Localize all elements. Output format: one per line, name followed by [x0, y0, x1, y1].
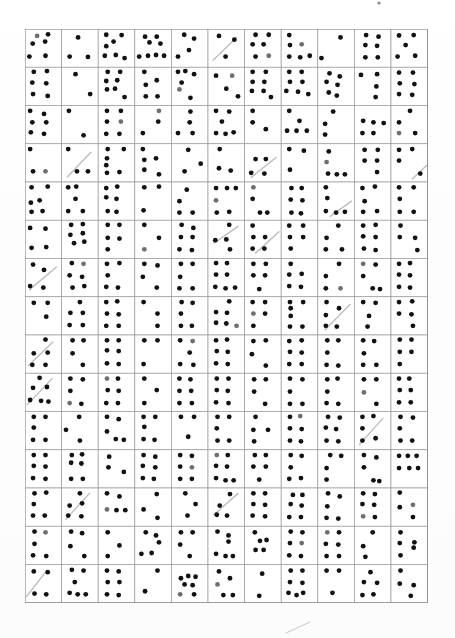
grid-cell[interactable]	[318, 259, 355, 297]
grid-cell[interactable]	[171, 564, 208, 602]
grid-cell[interactable]	[281, 488, 318, 526]
grid-cell[interactable]	[391, 144, 428, 182]
grid-cell[interactable]	[208, 526, 245, 564]
grid-cell[interactable]	[135, 335, 172, 373]
grid-cell[interactable]	[135, 564, 172, 602]
grid-cell[interactable]	[171, 488, 208, 526]
grid-cell[interactable]	[25, 67, 62, 105]
grid-cell[interactable]	[135, 297, 172, 335]
grid-cell[interactable]	[62, 67, 99, 105]
grid-cell[interactable]	[281, 373, 318, 411]
grid-cell[interactable]	[25, 373, 62, 411]
grid-cell[interactable]	[391, 526, 428, 564]
grid-cell[interactable]	[135, 488, 172, 526]
grid-cell[interactable]	[25, 488, 62, 526]
grid-cell[interactable]	[245, 182, 282, 220]
grid-cell[interactable]	[281, 220, 318, 258]
grid-cell[interactable]	[98, 526, 135, 564]
grid-cell[interactable]	[62, 220, 99, 258]
grid-cell[interactable]	[208, 411, 245, 449]
grid-cell[interactable]	[135, 29, 172, 67]
grid-cell[interactable]	[354, 297, 391, 335]
grid-cell[interactable]	[135, 67, 172, 105]
grid-cell[interactable]	[98, 450, 135, 488]
grid-cell[interactable]	[318, 29, 355, 67]
grid-cell[interactable]	[135, 373, 172, 411]
grid-cell[interactable]	[354, 564, 391, 602]
grid-cell[interactable]	[135, 450, 172, 488]
grid-cell[interactable]	[98, 259, 135, 297]
grid-cell[interactable]	[318, 297, 355, 335]
grid-cell[interactable]	[245, 67, 282, 105]
grid-cell[interactable]	[281, 564, 318, 602]
grid-cell[interactable]	[354, 220, 391, 258]
grid-cell[interactable]	[245, 220, 282, 258]
grid-cell[interactable]	[391, 182, 428, 220]
grid-cell[interactable]	[208, 106, 245, 144]
grid-cell[interactable]	[208, 488, 245, 526]
grid-cell[interactable]	[62, 526, 99, 564]
grid-cell[interactable]	[98, 488, 135, 526]
grid-cell[interactable]	[208, 144, 245, 182]
grid-cell[interactable]	[135, 106, 172, 144]
grid-cell[interactable]	[98, 67, 135, 105]
grid-cell[interactable]	[281, 29, 318, 67]
grid-cell[interactable]	[62, 29, 99, 67]
grid-cell[interactable]	[354, 144, 391, 182]
grid-cell[interactable]	[171, 297, 208, 335]
grid-cell[interactable]	[25, 29, 62, 67]
grid-cell[interactable]	[245, 373, 282, 411]
grid-cell[interactable]	[135, 220, 172, 258]
grid-cell[interactable]	[62, 335, 99, 373]
grid-cell[interactable]	[354, 29, 391, 67]
grid-cell[interactable]	[281, 144, 318, 182]
grid-cell[interactable]	[171, 182, 208, 220]
grid-cell[interactable]	[25, 297, 62, 335]
grid-cell[interactable]	[281, 106, 318, 144]
grid-cell[interactable]	[171, 411, 208, 449]
grid-cell[interactable]	[245, 450, 282, 488]
grid-cell[interactable]	[318, 564, 355, 602]
grid-cell[interactable]	[391, 220, 428, 258]
grid-cell[interactable]	[25, 335, 62, 373]
grid-cell[interactable]	[391, 488, 428, 526]
grid-cell[interactable]	[98, 220, 135, 258]
grid-cell[interactable]	[208, 564, 245, 602]
grid-cell[interactable]	[98, 106, 135, 144]
grid-cell[interactable]	[98, 564, 135, 602]
grid-cell[interactable]	[62, 373, 99, 411]
grid-cell[interactable]	[391, 297, 428, 335]
grid-cell[interactable]	[281, 67, 318, 105]
grid-cell[interactable]	[98, 29, 135, 67]
grid-cell[interactable]	[245, 29, 282, 67]
grid-cell[interactable]	[135, 182, 172, 220]
grid-cell[interactable]	[98, 144, 135, 182]
grid-cell[interactable]	[245, 106, 282, 144]
grid-cell[interactable]	[135, 526, 172, 564]
grid-cell[interactable]	[354, 182, 391, 220]
grid-cell[interactable]	[281, 259, 318, 297]
grid-cell[interactable]	[354, 373, 391, 411]
grid-cell[interactable]	[171, 220, 208, 258]
grid-cell[interactable]	[391, 67, 428, 105]
grid-cell[interactable]	[245, 411, 282, 449]
grid-cell[interactable]	[135, 144, 172, 182]
grid-cell[interactable]	[62, 450, 99, 488]
grid-cell[interactable]	[135, 259, 172, 297]
grid-cell[interactable]	[354, 259, 391, 297]
grid-cell[interactable]	[318, 450, 355, 488]
grid-cell[interactable]	[391, 411, 428, 449]
grid-cell[interactable]	[281, 297, 318, 335]
grid-cell[interactable]	[62, 564, 99, 602]
grid-cell[interactable]	[318, 488, 355, 526]
grid-cell[interactable]	[245, 526, 282, 564]
grid-cell[interactable]	[171, 259, 208, 297]
grid-cell[interactable]	[245, 564, 282, 602]
grid-cell[interactable]	[245, 144, 282, 182]
grid-cell[interactable]	[25, 564, 62, 602]
grid-cell[interactable]	[245, 259, 282, 297]
grid-cell[interactable]	[98, 411, 135, 449]
grid-cell[interactable]	[208, 297, 245, 335]
grid-cell[interactable]	[281, 526, 318, 564]
grid-cell[interactable]	[391, 335, 428, 373]
